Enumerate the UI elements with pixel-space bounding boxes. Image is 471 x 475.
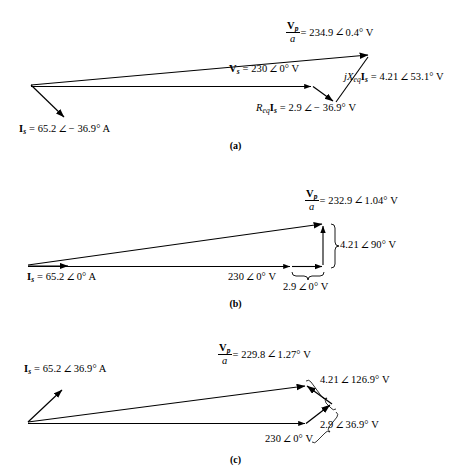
is-phase: 36.9° A	[74, 363, 107, 374]
jx-value: 4.21	[320, 374, 339, 385]
jx-value: 4.21	[340, 239, 359, 250]
vector-vp-over-a	[28, 386, 305, 422]
vp-value: = 229.8	[233, 349, 266, 360]
angle-glyph: ∠	[267, 62, 279, 76]
angle-glyph: ∠	[352, 193, 364, 207]
angle-glyph: ∠	[61, 362, 73, 376]
phasor-diagram-c: Vp a = 229.8∠1.27° V 4.21∠126.9° V 2.9∠3…	[0, 320, 471, 475]
label-vp-over-a-b: Vp a = 232.9∠1.04° V	[305, 190, 398, 213]
fraction-denominator: a	[305, 200, 319, 213]
r-value: 2.9	[320, 419, 333, 430]
is-symbol: Is	[27, 271, 34, 282]
label-vs-c: 230∠0° V	[265, 432, 313, 445]
jx-phase: 53.1° V	[410, 71, 443, 82]
jx-phase: 126.9° V	[351, 374, 390, 385]
vs-value: 230	[228, 271, 244, 282]
vs-phase: 0° V	[293, 433, 313, 444]
label-is-c: Is = 65.2∠36.9° A	[24, 362, 107, 375]
is-symbol: Is	[24, 363, 31, 374]
angle-glyph: ∠	[265, 347, 277, 361]
vector-jxeq-is	[307, 386, 332, 404]
angle-glyph: ∠	[398, 70, 410, 84]
angle-glyph: ∠	[281, 432, 293, 446]
brace-r-drop	[292, 272, 324, 280]
is-value: = 65.2	[34, 363, 62, 374]
angle-glyph: ∠	[359, 238, 371, 252]
is-value: = 65.2	[37, 271, 65, 282]
phasor-diagram-b: Vp a = 232.9∠1.04° V 4.21∠90° V 2.9∠0° V…	[0, 160, 471, 320]
label-is-a: Is = 65.2∠− 36.9° A	[19, 122, 110, 135]
vector-req-is	[313, 87, 333, 102]
angle-glyph: ∠	[333, 25, 345, 39]
angle-glyph: ∠	[296, 280, 308, 294]
vp-value: = 234.9	[301, 27, 334, 38]
jx-value: = 4.21	[371, 71, 399, 82]
req-phase: − 36.9° V	[314, 102, 356, 113]
is-value: = 65.2	[29, 123, 57, 134]
label-vs-a: Vs = 230∠0° V	[229, 62, 299, 75]
vp-phase: 1.27° V	[278, 349, 311, 360]
caption-a: (a)	[0, 140, 471, 151]
is-phase: 0° A	[77, 271, 96, 282]
label-jx-drop-c: 4.21∠126.9° V	[320, 373, 390, 386]
fraction-vp-over-a: Vp a	[305, 189, 319, 212]
label-is-b: Is = 65.2∠0° A	[27, 270, 96, 283]
vector-is	[28, 390, 62, 422]
label-req-is-a: ReqIs = 2.9∠− 36.9° V	[256, 101, 356, 114]
x-symbol: Xeq	[347, 71, 361, 82]
fraction-vp-over-a: Vp a	[286, 21, 300, 44]
vs-phase: 0° V	[279, 63, 299, 74]
vp-phase: 0.4° V	[346, 27, 374, 38]
is-symbol: Is	[19, 123, 26, 134]
fraction-numerator: Vp	[305, 189, 319, 200]
i-symbol: Is	[270, 102, 277, 113]
fraction-denominator: a	[286, 32, 300, 45]
vector-vp-over-a	[28, 224, 322, 265]
r-value: 2.9	[283, 281, 296, 292]
r-symbol: Req	[256, 102, 270, 113]
vp-phase: 1.04° V	[365, 195, 398, 206]
fraction-denominator: a	[218, 354, 232, 367]
label-vp-over-a-c: Vp a = 229.8∠1.27° V	[218, 344, 311, 367]
i-symbol: Is	[361, 71, 368, 82]
is-phase: − 36.9° A	[69, 123, 111, 134]
phasor-diagram-a: Vp a = 234.9∠0.4° V Vs = 230∠0° V jXeqIs…	[0, 0, 471, 160]
angle-glyph: ∠	[302, 101, 314, 115]
label-r-drop-b: 2.9∠0° V	[283, 280, 328, 293]
angle-glyph: ∠	[333, 418, 345, 432]
label-jxeq-is-a: jXeqIs = 4.21∠53.1° V	[344, 70, 444, 83]
angle-glyph: ∠	[339, 373, 351, 387]
fraction-numerator: Vp	[286, 21, 300, 32]
vs-symbol: Vs	[229, 63, 240, 74]
r-phase: 0° V	[309, 281, 329, 292]
vp-value: = 232.9	[320, 195, 353, 206]
label-jx-drop-b: 4.21∠90° V	[340, 238, 396, 251]
fraction-numerator: Vp	[218, 343, 232, 354]
phasor-vectors-b	[0, 160, 471, 320]
brace-jx-drop	[331, 224, 339, 268]
vs-value: = 230	[242, 63, 267, 74]
jx-phase: 90° V	[371, 239, 396, 250]
angle-glyph: ∠	[244, 270, 256, 284]
caption-c: (c)	[0, 454, 471, 465]
r-phase: 36.9° V	[346, 419, 379, 430]
vs-phase: 0° V	[256, 271, 276, 282]
caption-b: (b)	[0, 298, 471, 309]
fraction-vp-over-a: Vp a	[218, 343, 232, 366]
label-vp-over-a-a: Vp a = 234.9∠0.4° V	[286, 22, 374, 45]
vector-vp-over-a	[31, 55, 368, 85]
vector-is	[31, 85, 64, 117]
label-r-drop-c: 2.9∠36.9° V	[320, 418, 379, 431]
req-value: = 2.9	[280, 102, 302, 113]
vs-value: 230	[265, 433, 281, 444]
angle-glyph: ∠	[64, 270, 76, 284]
label-vs-b: 230∠0° V	[228, 270, 276, 283]
angle-glyph: ∠	[56, 122, 68, 136]
